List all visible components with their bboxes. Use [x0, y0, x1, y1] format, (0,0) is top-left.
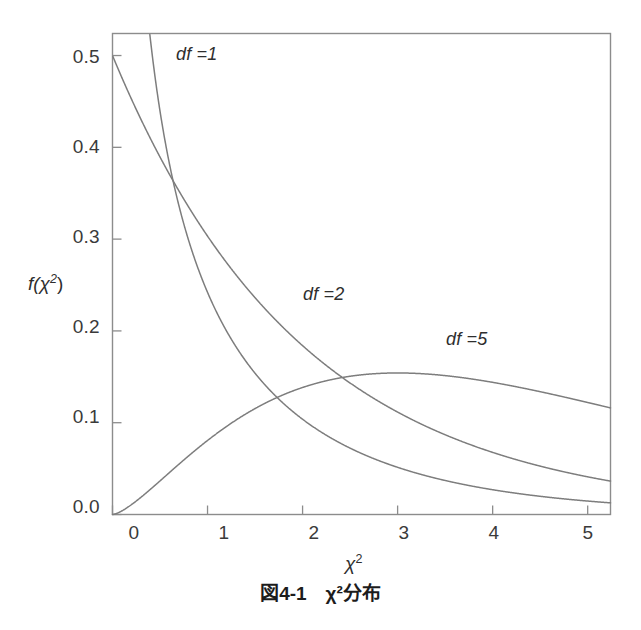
- curve-df-5: [113, 373, 611, 515]
- x-axis-title-chi: χ: [345, 553, 355, 574]
- y-axis-title-f: f(: [28, 273, 40, 294]
- x-axis-title: χ2: [345, 552, 362, 575]
- y-axis-title: f(χ2): [28, 272, 63, 295]
- curve-label-df-5: df =5: [446, 329, 488, 350]
- ytick-label-0-5: 0.5: [44, 46, 100, 68]
- y-axis-title-chi: χ: [40, 273, 50, 294]
- curve-label-df-2: df =2: [303, 284, 345, 305]
- plot-frame: [113, 34, 611, 515]
- xtick-label-5: 5: [568, 522, 608, 544]
- xtick-label-4: 4: [474, 522, 514, 544]
- ytick-label-0-0: 0.0: [44, 496, 100, 518]
- xtick-label-3: 3: [384, 522, 424, 544]
- curve-df-2: [113, 56, 611, 481]
- ytick-label-0-3: 0.3: [44, 226, 100, 248]
- y-axis-title-close: ): [57, 273, 63, 294]
- xtick-label-2: 2: [294, 522, 334, 544]
- ytick-label-0-4: 0.4: [44, 136, 100, 158]
- figure-caption: 図4-1 χ²分布: [0, 578, 641, 605]
- ytick-label-0-1: 0.1: [44, 406, 100, 428]
- chi-square-distribution-figure: 0.5 0.4 0.3 0.2 0.1 0.0 0 1 2 3 4 5 f(χ2…: [0, 0, 641, 630]
- axis-ticks: [113, 56, 588, 515]
- ytick-label-0-2: 0.2: [44, 316, 100, 338]
- xtick-label-1: 1: [204, 522, 244, 544]
- distribution-curves: [113, 35, 611, 515]
- x-axis-title-exponent: 2: [355, 552, 362, 566]
- xtick-label-0: 0: [114, 522, 154, 544]
- curve-label-df-1: df =1: [176, 44, 218, 65]
- y-axis-title-exponent: 2: [50, 272, 57, 286]
